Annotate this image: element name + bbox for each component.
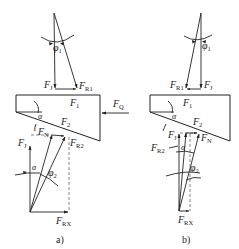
wedge-force-diagram: φ1 FJ FR1 F1 F2 α FQ [0,0,239,249]
fn-label: FN [37,126,49,138]
phi2-arc [186,177,201,180]
wedge-block [16,95,100,141]
fr1-label: FR1 [169,79,184,91]
fj-label: FJ [17,137,27,149]
panel-a: φ1 FJ FR1 F1 F2 α FQ [15,13,129,246]
phi1-label: φ1 [202,40,211,52]
panel-a-bottom-triangle: α φ2 FJ FN FR2 FRX [15,126,84,227]
fr1-vector [186,13,201,88]
panel-a-block: F1 F2 α FQ [16,95,129,141]
fr2-label: FR2 [150,142,165,154]
alpha-arc [15,173,40,175]
alpha-label: α [32,163,37,172]
caption-a: a) [56,234,64,246]
fr1-label: FR1 [78,80,93,92]
fr2-leader-line [169,146,178,148]
phi1-label: φ1 [53,42,62,54]
caption-b: b) [182,234,190,246]
phi1-arrow-icon [60,42,64,46]
fj-label: FJ [203,79,213,91]
frx-label: FRX [177,214,193,226]
fj-label: FJ [43,79,53,91]
frx-label: FRX [55,215,71,227]
panel-b: φ1 FR1 FJ F1 F2 α α φ2 [150,13,230,246]
panel-b-bottom-triangle: α φ2 FJ FR2 FN FRX [150,129,212,226]
panel-a-top-triangle: φ1 FJ FR1 [41,13,93,92]
fj-label: FJ [167,129,177,141]
alpha-tick [35,124,36,131]
phi2-label: φ2 [190,162,199,174]
phi2-label: φ2 [48,167,57,179]
f2-vector [52,135,64,136]
alpha-tick [163,124,166,131]
phi1-arc [41,35,74,42]
panel-b-top-triangle: φ1 FR1 FJ [169,13,213,91]
fr2-label: FR2 [69,137,84,149]
fq-label: FQ [112,98,124,110]
phi1-arc [184,35,212,40]
